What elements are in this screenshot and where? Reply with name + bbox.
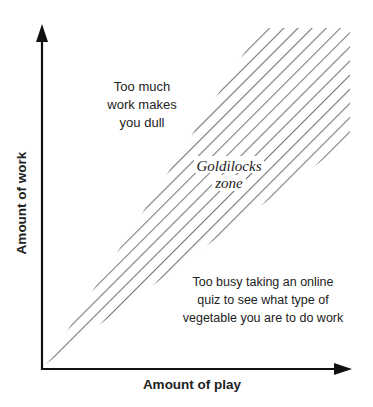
upper-left-line-3: you dull bbox=[120, 115, 165, 130]
upper-left-line-2: work makes bbox=[106, 97, 177, 112]
upper-left-line-1: Too much bbox=[114, 79, 170, 94]
zone-label-line-2: zone bbox=[214, 175, 243, 191]
lower-right-region-text: Too busy taking an online quiz to see wh… bbox=[183, 275, 344, 325]
y-axis-label: Amount of work bbox=[14, 151, 29, 254]
goldilocks-diagram: Amount of play Amount of work Too much w… bbox=[0, 0, 373, 407]
y-axis-arrow-icon bbox=[36, 24, 48, 42]
lower-right-line-3: vegetable you are to do work bbox=[183, 311, 344, 325]
upper-left-region-text: Too much work makes you dull bbox=[106, 79, 177, 130]
lower-right-line-2: quiz to see what type of bbox=[197, 293, 329, 307]
x-axis-label: Amount of play bbox=[143, 377, 242, 392]
lower-right-line-1: Too busy taking an online bbox=[192, 275, 333, 289]
y-axis bbox=[36, 24, 48, 370]
x-axis-arrow-icon bbox=[334, 363, 352, 375]
x-axis bbox=[41, 363, 352, 375]
zone-label-line-1: Goldilocks bbox=[197, 158, 262, 174]
